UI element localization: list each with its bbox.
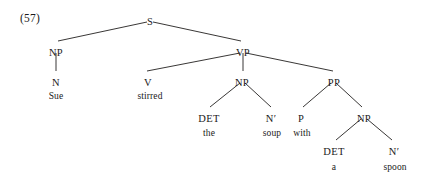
tree-leaf-stirred: stirred bbox=[138, 92, 163, 102]
tree-edge-vp-pp bbox=[246, 53, 333, 71]
tree-node-det1: DET bbox=[198, 114, 219, 125]
tree-edge-s-np1 bbox=[58, 22, 147, 41]
tree-node-pp: PP bbox=[328, 78, 340, 89]
tree-node-n1: N bbox=[52, 78, 60, 89]
tree-node-np3: NP bbox=[357, 114, 371, 125]
tree-edge-vp-v bbox=[147, 53, 240, 71]
tree-node-nbar1: N′ bbox=[266, 114, 276, 125]
tree-node-s: S bbox=[147, 17, 153, 28]
tree-node-vp: VP bbox=[236, 48, 250, 59]
tree-edge-s-vp bbox=[153, 22, 241, 41]
tree-node-nbar2: N′ bbox=[389, 147, 399, 158]
tree-node-p: P bbox=[298, 114, 304, 125]
tree-leaf-with: with bbox=[293, 129, 310, 139]
tree-edges bbox=[0, 0, 423, 177]
tree-leaf-soup: soup bbox=[263, 129, 281, 139]
tree-node-np2: NP bbox=[235, 78, 249, 89]
tree-node-det2: DET bbox=[323, 147, 344, 158]
tree-node-v: V bbox=[144, 78, 152, 89]
tree-edge-pp-p bbox=[303, 83, 331, 107]
tree-leaf-a: a bbox=[332, 163, 336, 173]
tree-leaf-spoon: spoon bbox=[383, 163, 406, 173]
syntax-tree-figure: (57) SNPVPNVNPPPDETN′PNPDETN′ Suestirred… bbox=[0, 0, 423, 177]
tree-leaf-the: the bbox=[203, 129, 215, 139]
tree-node-np1: NP bbox=[49, 48, 63, 59]
example-number: (57) bbox=[20, 12, 40, 24]
tree-leaf-sue: Sue bbox=[49, 92, 64, 102]
